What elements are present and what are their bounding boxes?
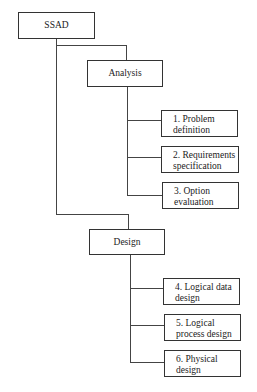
- step-2-line-1: 2. Requirements: [173, 150, 238, 161]
- step-2-line-2: specification: [173, 161, 238, 172]
- design-node: Design: [89, 229, 165, 255]
- step-3-line-2: evaluation: [174, 197, 238, 208]
- step-5-line-1: 5. Logical: [176, 318, 240, 329]
- step-3-line-1: 3. Option: [174, 186, 238, 197]
- step-1-node: 1. Problem definition: [161, 110, 238, 137]
- root-to-analysis-line: [56, 45, 127, 46]
- analysis-branch-1: [127, 120, 161, 121]
- analysis-drop-line: [126, 45, 127, 60]
- step-4-line-2: design: [175, 293, 239, 304]
- analysis-node: Analysis: [87, 60, 163, 87]
- ssad-root-label: SSAD: [44, 20, 68, 31]
- step-4-line-1: 4. Logical data: [175, 282, 239, 293]
- step-6-node: 6. Physical design: [164, 350, 241, 377]
- analysis-branch-3: [127, 195, 162, 196]
- analysis-branch-2: [127, 157, 161, 158]
- analysis-label: Analysis: [108, 68, 141, 79]
- design-label: Design: [114, 237, 141, 248]
- step-1-line-1: 1. Problem: [173, 114, 237, 125]
- ssad-root-node: SSAD: [18, 12, 95, 39]
- step-2-node: 2. Requirements specification: [161, 146, 239, 173]
- step-3-node: 3. Option evaluation: [162, 182, 239, 209]
- step-1-line-2: definition: [173, 125, 237, 136]
- root-to-design-line: [56, 214, 129, 215]
- design-branch-6: [130, 362, 164, 363]
- design-trunk-line: [130, 254, 131, 363]
- design-drop-line: [128, 214, 129, 229]
- step-6-line-1: 6. Physical: [176, 354, 240, 365]
- design-branch-5: [130, 325, 164, 326]
- design-branch-4: [130, 288, 163, 289]
- step-4-node: 4. Logical data design: [163, 278, 240, 305]
- root-trunk-line: [56, 38, 57, 215]
- step-5-node: 5. Logical process design: [164, 314, 241, 341]
- step-6-line-2: design: [176, 365, 240, 376]
- step-5-line-2: process design: [176, 329, 240, 340]
- analysis-trunk-line: [127, 87, 128, 196]
